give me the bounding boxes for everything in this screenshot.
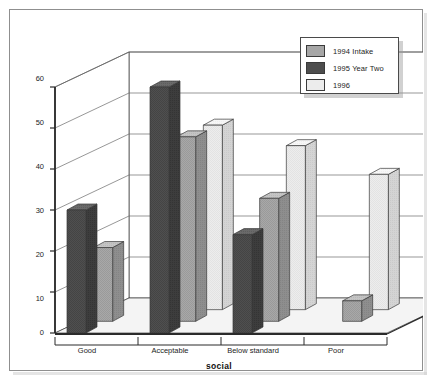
bar-1996-acceptable-side (222, 119, 233, 310)
y-tick-label: 50 (22, 118, 44, 127)
bar-1995-year-two-below-standard-side (252, 229, 263, 333)
x-axis-title: social (139, 361, 299, 371)
bar-1995-year-two-good-front (67, 210, 86, 333)
x-tick-label-poor: Poor (294, 346, 378, 355)
legend-label: 1995 Year Two (333, 64, 384, 73)
bar-1994-intake-poor-front (343, 301, 362, 322)
bar-1995-year-two-acceptable-front (150, 87, 169, 333)
bar-1995-year-two-acceptable-side (169, 81, 180, 333)
bar-1996-poor-side (388, 168, 399, 309)
legend-item-1996[interactable]: 1996 (306, 77, 393, 93)
bar-1994-intake-good-side (113, 242, 124, 322)
legend-label: 1996 (333, 81, 350, 90)
legend-swatch-icon (306, 45, 325, 57)
y-tick-label: 0 (22, 328, 44, 337)
legend-swatch-icon (306, 62, 325, 74)
x-tick-label-below-standard: Below standard (211, 346, 295, 355)
legend-label: 1994 Intake (333, 47, 373, 56)
bar-1994-intake-acceptable-side (196, 131, 207, 322)
frame-shadow-right (424, 13, 427, 375)
legend-item-1994[interactable]: 1994 Intake (306, 43, 393, 59)
y-tick-label: 60 (22, 74, 44, 83)
bar-1996-below-standard-side (305, 140, 316, 310)
x-tick-label-good: Good (45, 346, 129, 355)
y-tick-label: 30 (22, 206, 44, 215)
legend-swatch-icon (306, 79, 325, 91)
frame-shadow-bottom (13, 372, 427, 375)
bar-1994-intake-below-standard-side (279, 192, 290, 321)
y-tick-label: 10 (22, 294, 44, 303)
bar-1995-year-two-good-side (86, 204, 97, 333)
bar-1995-year-two-below-standard-front (233, 235, 252, 333)
chart-screenshot: 60 50 40 30 20 10 0 Good Acceptable Belo… (0, 0, 443, 392)
legend-item-1995[interactable]: 1995 Year Two (306, 60, 393, 76)
x-tick-label-acceptable: Acceptable (128, 346, 212, 355)
bar-1996-poor-front (369, 174, 388, 309)
y-tick-label: 40 (22, 162, 44, 171)
y-tick-label: 20 (22, 250, 44, 259)
chart-legend[interactable]: 1994 Intake 1995 Year Two 1996 (300, 37, 399, 94)
